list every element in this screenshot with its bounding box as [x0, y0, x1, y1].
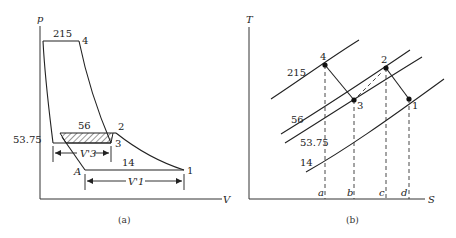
caption-b: (b) — [346, 215, 359, 225]
dimension-label-v1: V'1 — [128, 176, 144, 187]
state-point-2 — [383, 65, 388, 70]
process-4-3 — [325, 65, 354, 100]
pressure-label-56: 56 — [78, 120, 91, 131]
ts-diagram: T S 215 56 53.75 14 4 3 2 1 a b c d — [246, 14, 444, 225]
isobar-label-14: 14 — [300, 157, 313, 168]
isobar-label-56: 56 — [291, 114, 304, 125]
caption-a: (a) — [118, 215, 130, 225]
dimension-label-v3: V'3 — [80, 148, 96, 159]
left-curve — [43, 41, 53, 143]
ts-state-label-1: 1 — [412, 100, 418, 111]
entropy-tick-d: d — [401, 187, 407, 198]
state-label-4: 4 — [82, 35, 88, 46]
pv-diagram: p V 215 4 53.75 56 2 3 14 A 1 V'3 — [13, 13, 232, 225]
state-label-A: A — [73, 166, 81, 177]
isobar-label-53-75: 53.75 — [300, 137, 329, 148]
isobar-14 — [306, 79, 444, 172]
state-point-3 — [351, 97, 356, 102]
thermodynamic-cycle-figure: p V 215 4 53.75 56 2 3 14 A 1 V'3 — [0, 0, 456, 238]
state-label-2: 2 — [118, 121, 124, 132]
entropy-tick-c: c — [379, 187, 385, 198]
state-point-1 — [406, 96, 411, 101]
v-axis-label: V — [223, 194, 232, 205]
entropy-tick-a: a — [318, 187, 324, 198]
pressure-label-215: 215 — [53, 28, 72, 39]
pressure-label-14: 14 — [122, 157, 135, 168]
state-label-3: 3 — [115, 138, 121, 149]
ts-state-label-4: 4 — [320, 51, 326, 62]
hatched-work-region — [60, 133, 113, 143]
state-label-1: 1 — [187, 165, 193, 176]
state-point-4 — [322, 62, 327, 67]
s-axis-label: S — [428, 194, 435, 205]
isobar-label-215: 215 — [287, 67, 306, 78]
p-axis-label: p — [37, 13, 44, 24]
ts-state-label-2: 2 — [381, 54, 387, 65]
entropy-tick-b: b — [347, 187, 353, 198]
ts-state-label-3: 3 — [357, 100, 363, 111]
t-axis-label: T — [246, 14, 254, 25]
pressure-label-53-75: 53.75 — [13, 134, 42, 145]
